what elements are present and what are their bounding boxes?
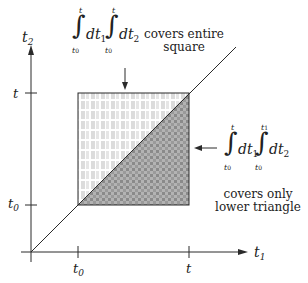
- x-tick-t: t: [186, 262, 191, 275]
- top-caption: covers entire square: [144, 28, 224, 54]
- x-axis: [21, 246, 248, 258]
- y-tick-t: t: [13, 87, 18, 100]
- right-caption: covers only lower triangle: [208, 188, 308, 214]
- y-tick-t0: t0: [8, 197, 19, 213]
- y-axis: [25, 45, 37, 262]
- x-axis-arrow-icon: [238, 249, 248, 255]
- down-arrow-icon: [122, 68, 128, 90]
- diagonal-line: [31, 47, 236, 252]
- left-arrow-icon: [194, 145, 217, 151]
- x-tick-t0: t0: [73, 262, 84, 278]
- x-axis-label: t1: [254, 245, 265, 262]
- y-axis-label: t2: [22, 30, 33, 47]
